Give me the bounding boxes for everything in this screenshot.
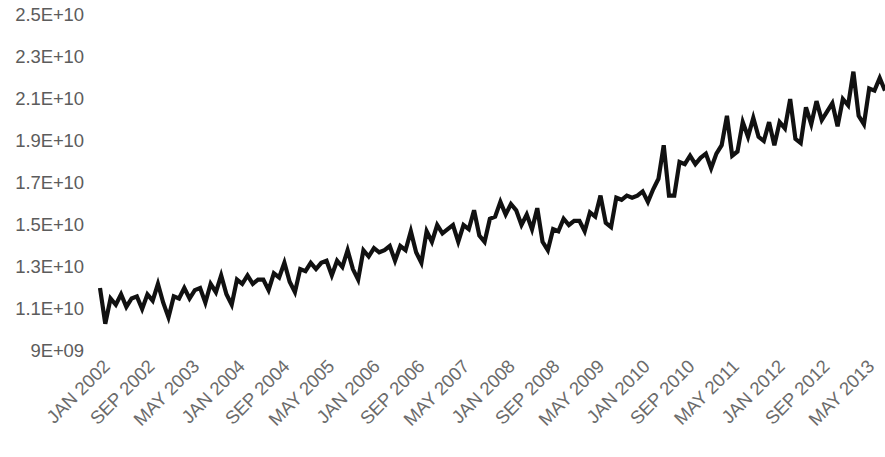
series-path xyxy=(100,72,885,324)
data-series-line xyxy=(0,0,885,457)
plot-area xyxy=(0,0,885,457)
line-chart: 2.5E+10 2.3E+10 2.1E+10 1.9E+10 1.7E+10 … xyxy=(0,0,885,457)
